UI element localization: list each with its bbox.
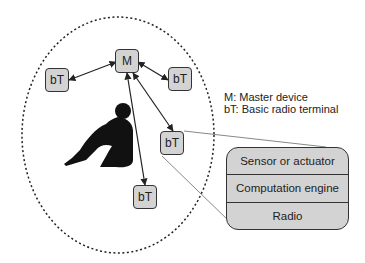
radio-terminal-node-bottom: bT [133, 185, 157, 209]
radio-terminal-node-right: bT [168, 67, 192, 91]
radio-layer: Radio [227, 203, 348, 229]
callout-line-bottom [162, 156, 230, 222]
terminal-architecture-block: Sensor or actuator Computation engine Ra… [226, 147, 349, 230]
sensor-actuator-layer: Sensor or actuator [227, 148, 348, 175]
radio-terminal-node-left: bT [45, 68, 69, 92]
callout-line-top [184, 131, 326, 147]
legend-master: M: Master device [224, 91, 308, 103]
legend-basic-terminal: bT: Basic radio terminal [224, 103, 338, 115]
master-device-node: M [115, 49, 139, 73]
radio-terminal-node-middle: bT [160, 131, 184, 155]
link-master-bt-right [138, 62, 168, 80]
link-master-bt-middle [133, 73, 173, 131]
person-silhouette-icon [64, 103, 133, 167]
computation-engine-layer: Computation engine [227, 175, 348, 202]
link-master-bt-left [69, 62, 116, 80]
